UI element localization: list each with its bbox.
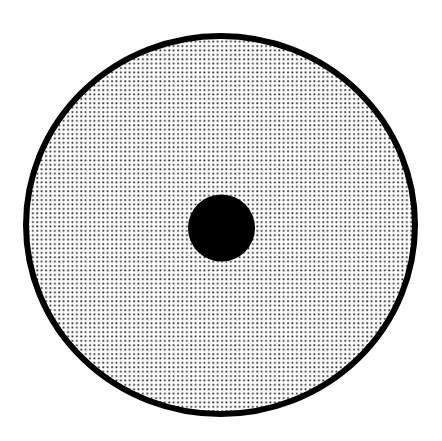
stippled-disc-figure	[0, 0, 442, 441]
center-dot	[188, 195, 255, 262]
figure-canvas	[0, 0, 442, 441]
